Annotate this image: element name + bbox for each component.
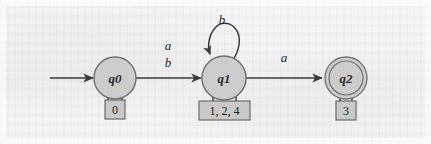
state-tag-q0: 0 (105, 100, 125, 119)
state-label-q2: q2 (340, 71, 354, 86)
transition-label-q0-q1-a: a (165, 38, 172, 53)
state-node-q1[interactable]: q1 (202, 56, 246, 100)
state-tag-text-q1: 1, 2, 4 (210, 104, 240, 118)
state-label-q0: q0 (109, 71, 123, 86)
self-loop-label-b: b (219, 12, 226, 27)
state-label-q1: q1 (218, 71, 231, 86)
transition-label-q1-q2-a: a (281, 50, 288, 65)
state-node-q0[interactable]: q0 (94, 57, 136, 99)
state-tag-q2: 3 (336, 101, 356, 120)
state-tag-text-q0: 0 (112, 103, 118, 117)
state-tag-q1: 1, 2, 4 (199, 101, 250, 120)
fsm-figure: a b b a q0 0 q1 1, 2, 4 (0, 0, 431, 144)
state-node-q2[interactable]: q2 (325, 57, 367, 99)
self-loop-q1 (209, 23, 240, 58)
fsm-diagram: a b b a q0 0 q1 1, 2, 4 (0, 0, 431, 144)
transition-label-q0-q1-b: b (165, 55, 172, 70)
state-tag-text-q2: 3 (343, 104, 349, 118)
